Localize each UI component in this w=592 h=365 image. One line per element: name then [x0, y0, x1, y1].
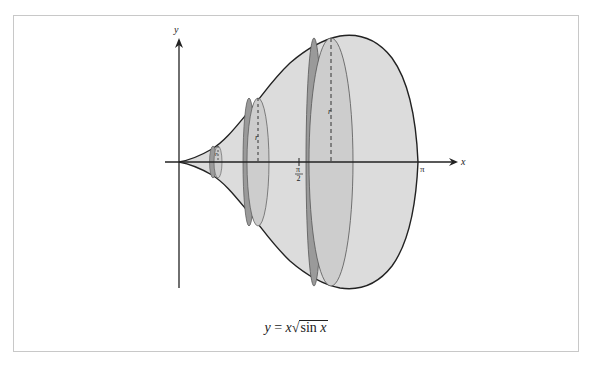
- solid-of-revolution-diagram: x y π π 2 r r r: [0, 0, 592, 365]
- x-axis-label: x: [460, 156, 466, 167]
- pi-tick-label: π: [420, 164, 425, 174]
- caption-lhs: y: [264, 320, 270, 335]
- y-axis-label: y: [173, 24, 179, 35]
- radicand-fn: sin: [300, 320, 316, 335]
- radius-label-small: r: [215, 150, 218, 158]
- half-pi-denominator: 2: [297, 174, 301, 183]
- radicand: sin x: [299, 320, 327, 335]
- caption-equals: =: [274, 320, 282, 335]
- function-caption: y = x√sin x: [0, 320, 592, 336]
- radical-icon: √: [292, 320, 300, 335]
- radicand-var: x: [320, 320, 326, 335]
- half-pi-numerator: π: [296, 165, 300, 174]
